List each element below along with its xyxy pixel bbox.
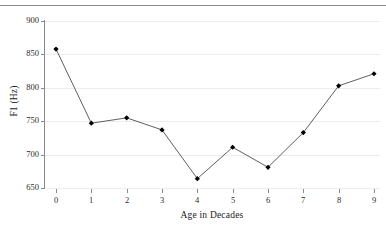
data-point-marker xyxy=(124,115,129,120)
y-axis-title: F1 (Hz) xyxy=(9,61,19,141)
data-point-marker xyxy=(371,71,376,76)
chart-figure: 650700750800850900 0123456789 F1 (Hz) Ag… xyxy=(0,0,386,232)
data-point-marker xyxy=(89,121,94,126)
data-point-marker xyxy=(53,46,58,51)
series-f1 xyxy=(0,0,386,232)
x-axis-title: Age in Decades xyxy=(44,210,380,220)
series-line xyxy=(56,49,374,179)
